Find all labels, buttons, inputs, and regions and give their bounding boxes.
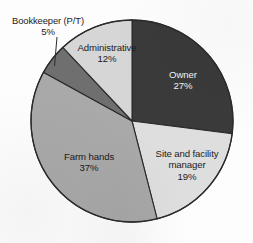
pie-label-administrative-value: 12%	[66, 53, 148, 64]
pie-label-bookkeeper: Bookkeeper (P/T) 5%	[2, 15, 94, 37]
pie-label-farm-hands-value: 37%	[51, 162, 127, 173]
pie-label-site-name-line2: manager	[143, 159, 231, 170]
pie-label-owner-value: 27%	[152, 80, 214, 91]
pie-label-administrative-name: Administrative	[66, 42, 148, 53]
pie-chart: Owner 27% Site and facility manager 19% …	[0, 0, 253, 243]
pie-label-owner: Owner 27%	[152, 69, 214, 92]
pie-label-site-value: 19%	[143, 171, 231, 182]
pie-label-bookkeeper-value: 5%	[2, 26, 94, 37]
pie-label-bookkeeper-name: Bookkeeper (P/T)	[2, 15, 94, 26]
pie-label-farm-hands: Farm hands 37%	[51, 151, 127, 174]
pie-label-owner-name: Owner	[152, 69, 214, 80]
pie-label-farm-hands-name: Farm hands	[51, 151, 127, 162]
pie-label-site-and-facility-manager: Site and facility manager 19%	[143, 148, 231, 182]
pie-label-site-name-line1: Site and facility	[143, 148, 231, 159]
pie-label-administrative: Administrative 12%	[66, 42, 148, 65]
